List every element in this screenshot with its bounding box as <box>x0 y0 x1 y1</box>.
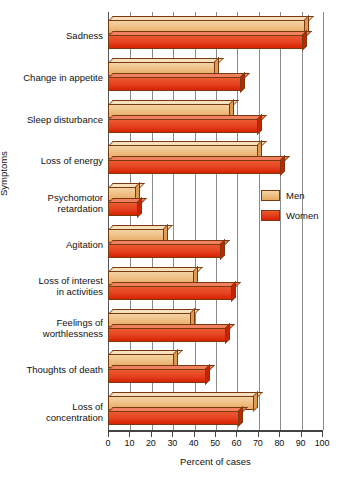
x-axis-tick-label: 50 <box>203 438 227 448</box>
x-axis-tick <box>129 430 130 437</box>
x-axis-tick <box>172 430 173 437</box>
category-label-line: in activities <box>7 286 103 297</box>
legend-item-men: Men <box>261 190 319 201</box>
x-axis-tick <box>236 430 237 437</box>
bar-front-face <box>108 35 303 49</box>
bar-front-face <box>108 119 258 133</box>
y-axis-title: Symptoms <box>0 151 9 196</box>
category-label: Feelings ofworthlessness <box>7 317 103 339</box>
x-axis-tick-label: 90 <box>289 438 313 448</box>
bar-women <box>108 328 226 342</box>
x-axis-tick-label: 40 <box>182 438 206 448</box>
category-label: Agitation <box>7 239 103 250</box>
legend-label-men: Men <box>286 190 304 201</box>
bar-front-face <box>108 369 206 383</box>
x-axis-tick-label: 60 <box>224 438 248 448</box>
legend-swatch-men <box>261 190 280 201</box>
category-label-line: Change in appetite <box>7 72 103 83</box>
bar-women <box>108 202 138 216</box>
bar-front-face <box>108 160 281 174</box>
category-label-line: Feelings of <box>7 317 103 328</box>
x-axis-tick <box>108 430 109 437</box>
category-label-line: Psychomotor <box>7 192 103 203</box>
x-axis-title: Percent of cases <box>108 456 323 467</box>
x-axis-tick-label: 0 <box>96 438 120 448</box>
gridline <box>259 12 260 430</box>
x-axis-tick <box>301 430 302 437</box>
category-label-line: Sadness <box>7 30 103 41</box>
bar-front-face <box>108 244 221 258</box>
bar-front-face <box>108 202 138 216</box>
x-axis-tick-label: 70 <box>246 438 270 448</box>
x-axis-tick <box>258 430 259 437</box>
bar-women <box>108 160 281 174</box>
category-label-line: worthlessness <box>7 328 103 339</box>
bar-women <box>108 286 232 300</box>
bar-women <box>108 35 303 49</box>
bar-front-face <box>108 411 239 425</box>
category-label-line: Loss of energy <box>7 155 103 166</box>
category-label: Loss ofconcentration <box>7 401 103 423</box>
category-label-line: Loss of <box>7 401 103 412</box>
x-axis-tick-label: 10 <box>117 438 141 448</box>
bar-front-face <box>108 77 241 91</box>
category-label: Psychomotorretardation <box>7 192 103 214</box>
category-label-line: retardation <box>7 203 103 214</box>
category-label-line: Thoughts of death <box>7 364 103 375</box>
legend-item-women: Women <box>261 210 319 221</box>
category-label: Thoughts of death <box>7 364 103 375</box>
bar-women <box>108 411 239 425</box>
category-label-line: Loss of interest <box>7 275 103 286</box>
x-axis-tick-label: 100 <box>310 438 334 448</box>
x-axis-tick <box>215 430 216 437</box>
bar-chart: SadnessChange in appetiteSleep disturban… <box>0 0 339 487</box>
legend-label-women: Women <box>286 210 319 221</box>
x-axis-tick-label: 30 <box>160 438 184 448</box>
category-label-line: concentration <box>7 412 103 423</box>
x-axis-tick-label: 80 <box>267 438 291 448</box>
category-label: Loss of interestin activities <box>7 275 103 297</box>
bar-front-face <box>108 286 232 300</box>
x-axis-tick <box>322 430 323 437</box>
bar-women <box>108 369 206 383</box>
category-label: Sadness <box>7 30 103 41</box>
x-axis-tick <box>151 430 152 437</box>
bar-women <box>108 244 221 258</box>
x-axis-tick <box>194 430 195 437</box>
bar-front-face <box>108 328 226 342</box>
category-label: Change in appetite <box>7 72 103 83</box>
legend: Men Women <box>261 190 319 230</box>
category-label: Sleep disturbance <box>7 114 103 125</box>
x-axis-tick-label: 20 <box>139 438 163 448</box>
category-label-line: Agitation <box>7 239 103 250</box>
category-label-line: Sleep disturbance <box>7 114 103 125</box>
x-axis-tick <box>279 430 280 437</box>
gridline <box>323 12 324 430</box>
category-label: Loss of energy <box>7 155 103 166</box>
bar-women <box>108 77 241 91</box>
legend-swatch-women <box>261 210 280 221</box>
bar-women <box>108 119 258 133</box>
